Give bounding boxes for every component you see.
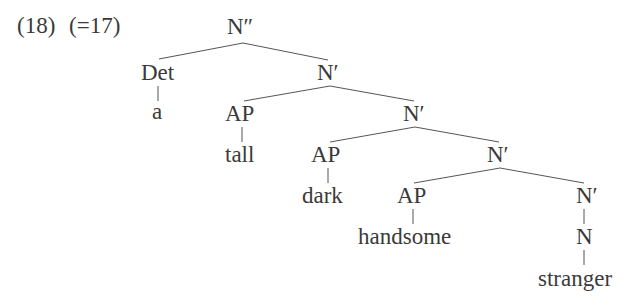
- node-ap-2: AP: [311, 143, 340, 167]
- node-ap-3: AP: [397, 184, 426, 208]
- edge-n2-det: [159, 43, 243, 59]
- node-n: N: [576, 225, 593, 249]
- leaf-handsome: handsome: [358, 225, 451, 249]
- node-n-bar-2: N′: [403, 102, 425, 126]
- node-n-bar-4: N′: [576, 184, 598, 208]
- edge-n1b-n1c: [415, 127, 499, 142]
- edge-n2-n1a: [243, 43, 328, 60]
- leaf-a: a: [152, 100, 162, 124]
- node-det: Det: [141, 61, 174, 85]
- leaf-stranger: stranger: [538, 267, 612, 291]
- edge-n1c-n1d: [500, 168, 584, 183]
- leaf-tall: tall: [225, 143, 254, 167]
- node-ap-1: AP: [225, 102, 254, 126]
- node-n-bar-1: N′: [317, 61, 339, 85]
- edge-n1a-n1b: [330, 86, 414, 101]
- node-n-bar-3: N′: [487, 143, 509, 167]
- leaf-dark: dark: [302, 184, 343, 208]
- edge-n1b-ap2: [330, 127, 415, 142]
- node-n-double-bar: N″: [227, 15, 253, 39]
- edge-n1a-ap1: [244, 86, 330, 101]
- edge-n1c-ap3: [414, 168, 500, 183]
